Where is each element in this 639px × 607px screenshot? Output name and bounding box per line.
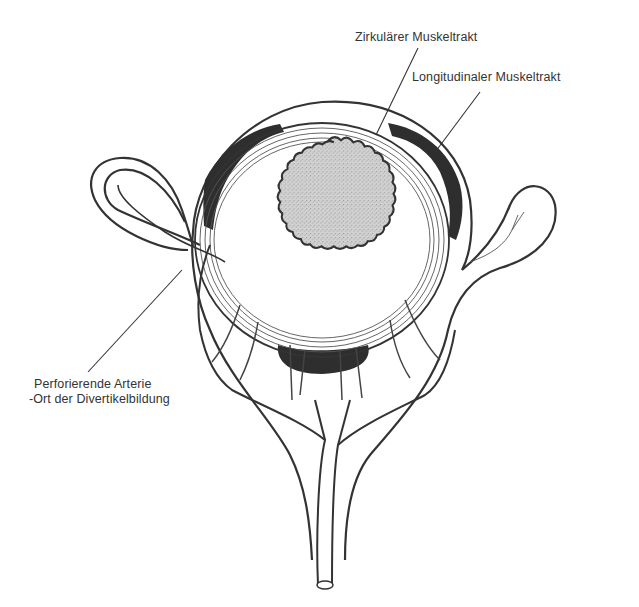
label-longitudinal-muscle: Longitudinaler Muskeltrakt (412, 70, 561, 85)
leader-longitudinal (433, 92, 480, 155)
colon-cross-section-illustration (0, 0, 639, 607)
artery-stump (317, 581, 333, 589)
diagram-stage: Zirkulärer Muskeltrakt Longitudinaler Mu… (0, 0, 639, 607)
colon-lumen (278, 137, 396, 249)
label-circular-muscle: Zirkulärer Muskeltrakt (355, 30, 477, 45)
leader-artery (88, 270, 182, 372)
mesenteric-artery (198, 245, 455, 585)
leader-circular (376, 48, 418, 135)
label-diverticulum-site: -Ort der Divertikelbildung (29, 392, 170, 407)
taenia-right (388, 123, 463, 240)
label-perforating-artery: Perforierende Arterie (34, 377, 151, 392)
